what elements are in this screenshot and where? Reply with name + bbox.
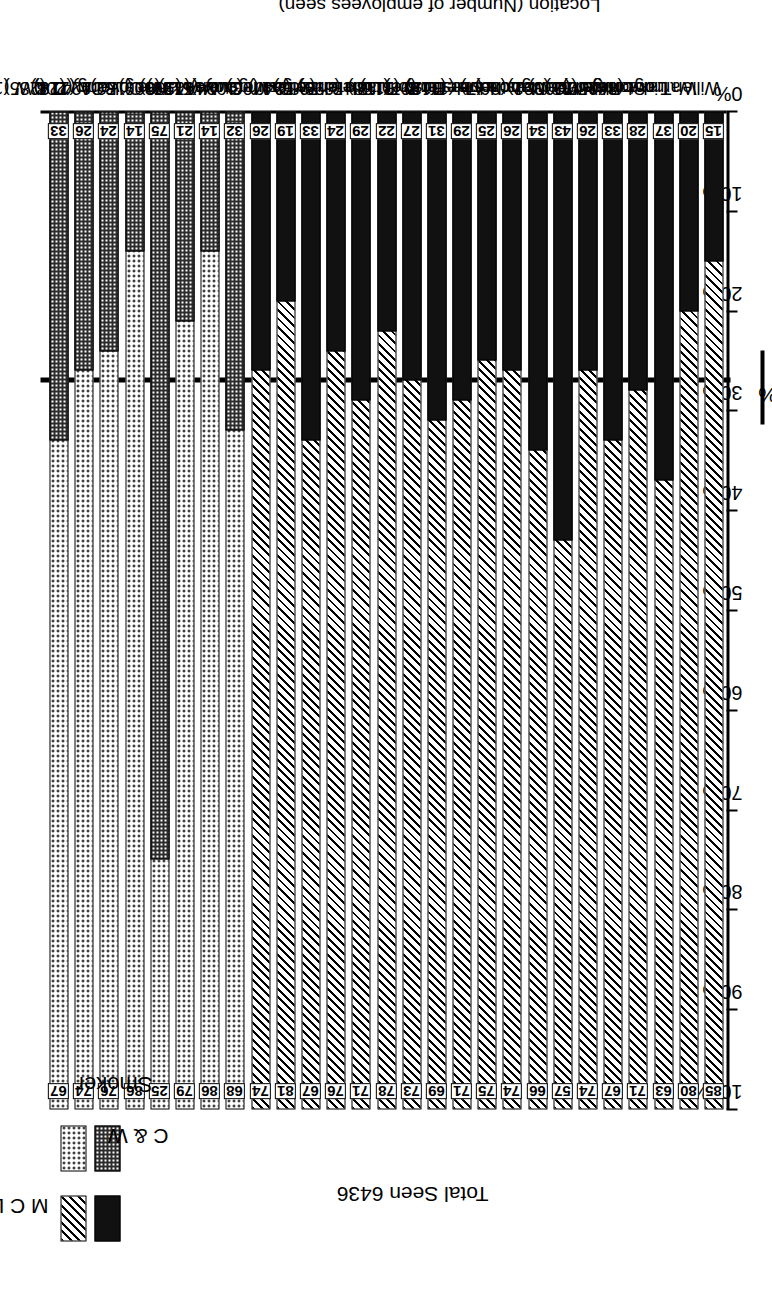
- bar-value-nonsmoker: 71: [350, 1083, 371, 1099]
- table-row: [528, 111, 547, 1109]
- bar-smoker-segment: [351, 111, 370, 400]
- bar-smoker-segment: [553, 111, 572, 540]
- bar-smoker-segment: [477, 111, 496, 361]
- table-row: [603, 111, 622, 1109]
- bar-value-nonsmoker: 68: [224, 1083, 245, 1099]
- table-row: [553, 111, 572, 1109]
- bar-smoker-segment: [326, 111, 345, 351]
- bar-value-smoker: 32: [224, 123, 245, 139]
- bar-smoker-segment: [74, 111, 93, 370]
- bar-nonsmoker-segment: [200, 111, 219, 1109]
- bar-value-nonsmoker: 66: [526, 1083, 547, 1099]
- bar-smoker-segment: [502, 111, 521, 370]
- table-row: [49, 111, 68, 1109]
- bar-value-nonsmoker: 85: [703, 1083, 724, 1099]
- bar-smoker-segment: [175, 111, 194, 321]
- bar-value-nonsmoker: 80: [677, 1083, 698, 1099]
- bar-smoker-segment: [99, 111, 118, 351]
- table-row: [704, 111, 723, 1109]
- bar-value-nonsmoker: 67: [300, 1083, 321, 1099]
- bar-value-nonsmoker: 75: [476, 1083, 497, 1099]
- table-row: [452, 111, 471, 1109]
- bar-value-nonsmoker: 74: [249, 1083, 270, 1099]
- axis-title-location: Location (Number of employees seen): [300, 0, 600, 15]
- table-row: [150, 111, 169, 1109]
- bar-value-smoker: 75: [148, 123, 169, 139]
- table-row: [351, 111, 370, 1109]
- bar-value-smoker: 33: [48, 123, 69, 139]
- bar-value-smoker: 24: [98, 123, 119, 139]
- bar-value-smoker: 34: [526, 123, 547, 139]
- category-axis-label: Willen Lake (86): [591, 76, 721, 97]
- table-row: [628, 111, 647, 1109]
- percent-axis-tick: [726, 210, 737, 212]
- bar-value-nonsmoker: 71: [451, 1083, 472, 1099]
- legend-swatch-mcl-nonsmoker: [60, 1195, 86, 1241]
- percent-axis-tick: [726, 709, 737, 711]
- percent-axis-tick: [726, 409, 737, 411]
- bar-value-smoker: 33: [300, 123, 321, 139]
- total-seen-label: Total Seen 6436: [336, 1181, 488, 1205]
- bar-value-smoker: 31: [426, 123, 447, 139]
- table-row: [326, 111, 345, 1109]
- bar-value-smoker: 20: [677, 123, 698, 139]
- bar-nonsmoker-segment: [125, 111, 144, 1109]
- bar-value-smoker: 21: [174, 123, 195, 139]
- bar-value-nonsmoker: 63: [652, 1083, 673, 1099]
- bar-value-nonsmoker: 79: [174, 1083, 195, 1099]
- table-row: [225, 111, 244, 1109]
- bar-smoker-segment: [377, 111, 396, 331]
- table-row: [99, 111, 118, 1109]
- table-row: [276, 111, 295, 1109]
- bar-value-smoker: 43: [551, 123, 572, 139]
- legend-swatch-mcl-smoker: [94, 1195, 120, 1241]
- bar-value-smoker: 14: [123, 123, 144, 139]
- bar-smoker-segment: [528, 111, 547, 450]
- percent-axis-tick: [726, 609, 737, 611]
- bar-value-smoker: 26: [249, 123, 270, 139]
- table-row: [502, 111, 521, 1109]
- bar-smoker-segment: [679, 111, 698, 311]
- bar-smoker-segment: [578, 111, 597, 370]
- bar-value-smoker: 14: [199, 123, 220, 139]
- table-row: [200, 111, 219, 1109]
- bar-value-nonsmoker: 74: [501, 1083, 522, 1099]
- bar-smoker-segment: [628, 111, 647, 390]
- bar-value-nonsmoker: 78: [375, 1083, 396, 1099]
- legend-swatch-cw-nonsmoker: [60, 1125, 86, 1171]
- bar-smoker-segment: [427, 111, 446, 420]
- legend-label-mcl: M C L: [0, 1193, 48, 1217]
- bar-value-smoker: 22: [375, 123, 396, 139]
- bar-value-nonsmoker: 76: [325, 1083, 346, 1099]
- percent-axis-tick: [726, 509, 737, 511]
- table-row: [679, 111, 698, 1109]
- bar-value-nonsmoker: 86: [199, 1083, 220, 1099]
- legend-label-cw: C & W: [107, 1123, 168, 1147]
- bar-value-nonsmoker: 57: [551, 1083, 572, 1099]
- percent-axis-tick: [726, 809, 737, 811]
- percent-axis-tick: [726, 908, 737, 910]
- bar-value-nonsmoker: 67: [48, 1083, 69, 1099]
- rotated-figure: 100%90%80%70%60%50%40%30%20%10%0%Company…: [0, 0, 772, 1305]
- bar-value-smoker: 15: [703, 123, 724, 139]
- bar-value-smoker: 28: [627, 123, 648, 139]
- table-row: [251, 111, 270, 1109]
- percent-axis-tick: [726, 110, 737, 112]
- table-row: [301, 111, 320, 1109]
- bar-value-smoker: 27: [400, 123, 421, 139]
- bar-value-smoker: 24: [325, 123, 346, 139]
- bar-value-smoker: 37: [652, 123, 673, 139]
- table-row: [578, 111, 597, 1109]
- percent-axis-tick: [726, 1008, 737, 1010]
- legend-title: Smoker: [76, 1070, 152, 1096]
- bar-value-smoker: 26: [501, 123, 522, 139]
- bar-smoker-segment: [150, 111, 169, 860]
- bar-value-smoker: 29: [350, 123, 371, 139]
- table-row: [477, 111, 496, 1109]
- table-row: [74, 111, 93, 1109]
- plot-area: 100%90%80%70%60%50%40%30%20%10%0%Company…: [0, 0, 772, 1305]
- bar-smoker-segment: [402, 111, 421, 380]
- bar-smoker-segment: [301, 111, 320, 440]
- bar-smoker-segment: [251, 111, 270, 370]
- bar-value-nonsmoker: 74: [577, 1083, 598, 1099]
